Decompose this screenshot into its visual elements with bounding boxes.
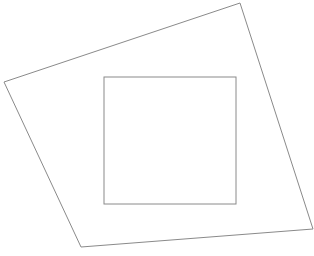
diagram-canvas <box>0 0 314 256</box>
outer-quadrilateral <box>4 3 313 247</box>
inner-rectangle <box>104 77 236 204</box>
